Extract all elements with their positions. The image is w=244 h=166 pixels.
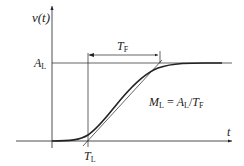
rise-label: TF [117,39,129,54]
arrow-head-left [88,53,94,57]
slope-formula: ML = AL/TF [148,95,204,110]
step-response-diagram: v(t) t AL TL TF ML = AL/TF [0,0,244,166]
level-label: AL [33,56,46,71]
x-axis-label: t [227,125,231,139]
lag-label: TL [84,149,96,164]
y-axis-label: v(t) [32,10,50,25]
